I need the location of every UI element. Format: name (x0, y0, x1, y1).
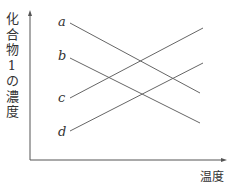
x-axis-arrow-icon (221, 158, 227, 162)
line-d (70, 63, 203, 131)
line-d-label: d (58, 124, 66, 139)
line-a-label: a (58, 14, 66, 29)
line-c (70, 28, 203, 98)
y-axis-label: 化 合 物 1 の 濃 度 (4, 11, 20, 120)
concentration-temperature-diagram (0, 0, 236, 187)
line-b (70, 58, 200, 123)
line-a (70, 23, 200, 93)
x-axis-label: 温度 (200, 167, 224, 184)
line-b-label: b (58, 48, 66, 63)
y-axis-arrow-icon (28, 10, 32, 16)
line-c-label: c (58, 90, 65, 105)
